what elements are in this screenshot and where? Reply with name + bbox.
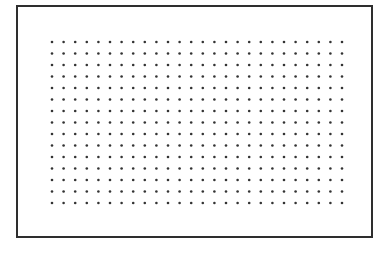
grid-dot <box>155 144 158 147</box>
grid-dot <box>202 202 205 205</box>
grid-dot <box>51 64 54 67</box>
grid-dot <box>318 87 321 90</box>
grid-dot <box>248 144 251 147</box>
grid-dot <box>248 41 251 44</box>
grid-dot <box>225 202 228 205</box>
grid-dot <box>260 190 263 193</box>
grid-dot <box>294 98 297 101</box>
grid-dot <box>294 133 297 136</box>
grid-dot <box>248 64 251 67</box>
grid-dot <box>225 110 228 113</box>
grid-dot <box>294 144 297 147</box>
grid-dot <box>144 41 147 44</box>
grid-dot <box>178 121 181 124</box>
grid-dot <box>74 41 77 44</box>
grid-dot <box>97 98 100 101</box>
grid-dot <box>306 202 309 205</box>
grid-dot <box>74 190 77 193</box>
grid-dot <box>51 98 54 101</box>
grid-dot <box>306 190 309 193</box>
grid-dot <box>62 75 65 78</box>
grid-dot <box>97 167 100 170</box>
grid-dot <box>167 64 170 67</box>
grid-dot <box>51 133 54 136</box>
grid-dot <box>318 98 321 101</box>
grid-dot <box>260 41 263 44</box>
grid-dot <box>178 179 181 182</box>
grid-dot <box>318 190 321 193</box>
grid-dot <box>97 202 100 205</box>
grid-dot <box>155 202 158 205</box>
grid-dot <box>271 52 274 55</box>
grid-dot <box>283 121 286 124</box>
grid-dot <box>248 167 251 170</box>
grid-dot <box>132 64 135 67</box>
grid-dot <box>62 121 65 124</box>
grid-dot <box>306 133 309 136</box>
grid-dot <box>178 202 181 205</box>
grid-dot <box>62 190 65 193</box>
grid-dot <box>248 190 251 193</box>
grid-dot <box>225 41 228 44</box>
grid-dot <box>225 133 228 136</box>
grid-dot <box>155 41 158 44</box>
grid-dot <box>155 133 158 136</box>
grid-dot <box>283 64 286 67</box>
grid-dot <box>318 144 321 147</box>
grid-dot <box>51 179 54 182</box>
grid-dot <box>97 110 100 113</box>
grid-dot <box>132 41 135 44</box>
grid-dot <box>109 110 112 113</box>
grid-dot <box>329 190 332 193</box>
grid-dot <box>155 110 158 113</box>
grid-dot <box>213 110 216 113</box>
grid-dot <box>225 179 228 182</box>
grid-dot <box>260 87 263 90</box>
grid-dot <box>202 41 205 44</box>
grid-dot <box>62 52 65 55</box>
grid-dot <box>294 110 297 113</box>
grid-dot <box>132 98 135 101</box>
grid-dot <box>190 167 193 170</box>
grid-dot <box>155 87 158 90</box>
grid-dot <box>236 87 239 90</box>
grid-dot <box>294 121 297 124</box>
grid-dot <box>97 41 100 44</box>
grid-dot <box>167 110 170 113</box>
grid-dot <box>318 179 321 182</box>
grid-dot <box>329 121 332 124</box>
grid-dot <box>202 75 205 78</box>
grid-dot <box>283 41 286 44</box>
grid-dot <box>341 144 344 147</box>
grid-dot <box>329 156 332 159</box>
grid-dot <box>283 110 286 113</box>
grid-dot <box>306 98 309 101</box>
grid-dot <box>190 98 193 101</box>
grid-dot <box>213 202 216 205</box>
grid-dot <box>329 110 332 113</box>
grid-dot <box>225 64 228 67</box>
grid-dot <box>62 41 65 44</box>
grid-dot <box>213 133 216 136</box>
grid-dot <box>97 52 100 55</box>
grid-dot <box>260 156 263 159</box>
grid-dot <box>86 41 89 44</box>
grid-dot <box>62 202 65 205</box>
grid-dot <box>236 179 239 182</box>
grid-dot <box>283 190 286 193</box>
grid-dot <box>97 190 100 193</box>
grid-dot <box>190 110 193 113</box>
grid-dot <box>271 179 274 182</box>
grid-dot <box>167 121 170 124</box>
grid-dot <box>190 179 193 182</box>
grid-dot <box>329 75 332 78</box>
grid-dot <box>248 110 251 113</box>
grid-dot <box>213 64 216 67</box>
grid-dot <box>120 179 123 182</box>
grid-dot <box>271 64 274 67</box>
grid-dot <box>86 87 89 90</box>
grid-dot <box>132 144 135 147</box>
grid-dot <box>167 179 170 182</box>
grid-dot <box>190 144 193 147</box>
grid-dot <box>109 179 112 182</box>
